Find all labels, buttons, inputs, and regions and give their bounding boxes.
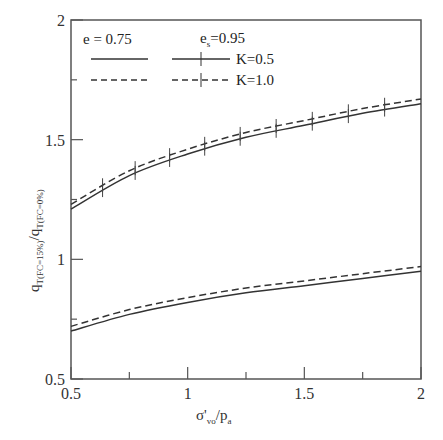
chart: 0.511.520.511.52 e = 0.75 es=0.95 K=0.5 … <box>0 0 443 440</box>
series-line-1 <box>71 99 421 204</box>
legend: e = 0.75 es=0.95 K=0.5 K=1.0 <box>83 30 274 88</box>
y-tick-label: 2 <box>57 12 65 29</box>
legend-label-k05: K=0.5 <box>236 51 274 67</box>
x-tick-label: 1 <box>184 385 192 402</box>
legend-label-es: es=0.95 <box>200 30 245 49</box>
y-tick-label: 0.5 <box>45 371 65 388</box>
series-line-0 <box>71 104 421 209</box>
plot-axes: 0.511.520.511.52 <box>45 12 425 402</box>
x-tick-label: 2 <box>417 385 425 402</box>
series-line-3 <box>71 267 421 327</box>
x-axis-label: σ'vo/pa <box>196 407 231 426</box>
y-tick-label: 1.5 <box>45 132 65 149</box>
x-tick-label: 1.5 <box>294 385 314 402</box>
legend-label-k10: K=1.0 <box>236 72 274 88</box>
legend-label-e: e = 0.75 <box>83 31 132 47</box>
y-tick-label: 1 <box>57 251 65 268</box>
plot-series <box>71 98 421 331</box>
y-axis-label: qT(FC=15%)/qT(FC=0%) <box>26 189 45 292</box>
series-line-2 <box>71 271 421 331</box>
